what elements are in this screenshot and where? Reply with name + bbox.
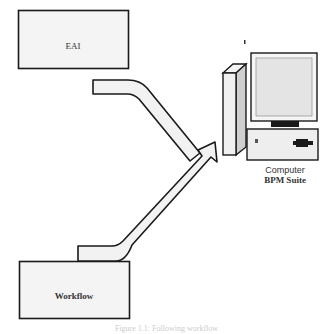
eai-label: EAI	[18, 41, 128, 51]
eai-to-computer-arrow	[93, 80, 200, 161]
figure-caption: Figure 1.1: Following workflow	[0, 324, 333, 333]
bpm-suite-label: BPM Suite	[240, 175, 330, 185]
eai-box	[19, 11, 129, 69]
computer-icon	[223, 40, 318, 160]
workflow-label: Workflow	[19, 291, 129, 301]
workflow-to-computer-arrow	[78, 142, 217, 261]
workflow-box	[20, 262, 130, 319]
computer-label: Computer	[240, 165, 330, 175]
